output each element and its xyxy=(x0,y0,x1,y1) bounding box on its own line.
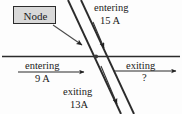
node-current-diagram: Node entering 15 A entering 9 A exiting … xyxy=(0,0,182,114)
right-branch-value-label: ? xyxy=(142,73,147,84)
left-branch-value-label: 9 A xyxy=(35,74,50,85)
left-branch-direction-label: entering xyxy=(25,61,59,72)
right-branch-direction-label: exiting xyxy=(126,61,155,72)
top-branch-direction-label: entering xyxy=(94,3,128,14)
junction-dot-icon xyxy=(94,54,98,58)
top-branch-value-label: 15 A xyxy=(100,16,120,27)
leader-arrow-icon xyxy=(53,25,82,45)
bottom-branch-value-label: 13A xyxy=(70,100,88,111)
node-callout-box: Node xyxy=(13,6,56,24)
node-callout-label: Node xyxy=(14,10,57,22)
bottom-branch-direction-label: exiting xyxy=(63,87,92,98)
